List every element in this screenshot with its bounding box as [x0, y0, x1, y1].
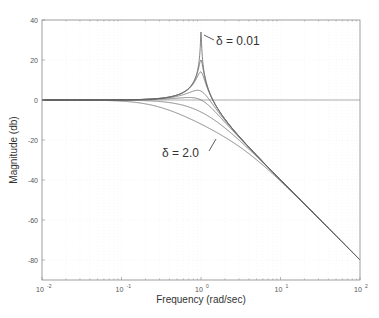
arrow-top [204, 35, 214, 40]
x-tick-label: 10 [116, 286, 124, 293]
annotation-delta-0.01: δ = 0.01 [216, 34, 260, 48]
curve-delta-0.3 [42, 90, 360, 260]
svg-text:0: 0 [206, 283, 209, 289]
x-tick-label: 10 [354, 286, 362, 293]
y-tick-label: 0 [34, 97, 38, 104]
y-tick-label: 40 [30, 17, 38, 24]
y-tick-label: -20 [28, 137, 38, 144]
annotation-delta-2.0: δ = 2.0 [162, 146, 199, 160]
y-tick-label: 20 [30, 57, 38, 64]
svg-text:-1: -1 [127, 283, 132, 289]
bode-magnitude-chart: 40200-20-40-60-80 10-210-1100101102 Freq… [0, 0, 379, 318]
grid-lines [42, 20, 360, 280]
arrow-bottom [209, 139, 216, 151]
curve-delta-0.5 [42, 98, 360, 261]
x-axis-label: Frequency (rad/sec) [156, 294, 245, 305]
x-tick-label: 10 [275, 286, 283, 293]
svg-text:2: 2 [365, 283, 368, 289]
y-axis-ticks: 40200-20-40-60-80 [28, 17, 45, 264]
y-tick-label: -60 [28, 217, 38, 224]
y-tick-label: -80 [28, 257, 38, 264]
y-axis-label: Magnitude (db) [8, 116, 19, 183]
svg-text:1: 1 [286, 283, 289, 289]
x-tick-label: 10 [195, 286, 203, 293]
x-axis-ticks: 10-210-1100101102 [36, 20, 368, 293]
x-tick-label: 10 [36, 286, 44, 293]
svg-text:-2: -2 [47, 283, 52, 289]
y-tick-label: -40 [28, 177, 38, 184]
